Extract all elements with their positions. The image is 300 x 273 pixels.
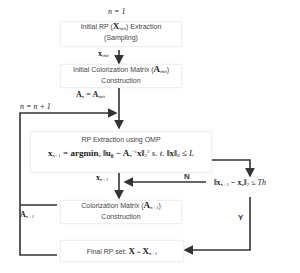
arrow-yes-branch [185,197,250,250]
colorization-box: Colorization Matrix (An+1) Construction [60,200,182,224]
a-next-label: An+1 [20,210,34,219]
final-rp-box: Final RP set: X = Xn+1 [60,240,184,262]
initial-colorization-line2: Construction [61,76,181,85]
yes-label: Y [238,213,243,222]
convergence-condition: ‖xn+1 − xn‖2 ≤ Th [214,178,266,187]
omp-formula: xn+1 = argminx ‖u₀ − An−1x‖22 s. t. ‖x‖0… [31,147,211,160]
a-n-init-label: An = Ainit [76,90,105,99]
x-next-label: xn+1 [96,173,108,182]
colorization-line1: Colorization Matrix (An+1) [61,201,181,212]
initial-colorization-box: Initial Colorization Matrix (Ainit) Cons… [60,64,182,88]
n-increment-label: n = n + 1 [20,102,51,111]
n-init-label: n = 1 [108,7,125,16]
initial-rp-line2: (Sampling) [61,33,181,42]
initial-rp-box: Initial RP (Xinit) Extraction (Sampling) [60,21,182,47]
initial-colorization-line1: Initial Colorization Matrix (Ainit) [61,65,181,76]
x-init-label: xinit [98,49,109,58]
omp-box: RP Extraction using OMP xn+1 = argminx ‖… [30,131,212,173]
arrow-omp-to-condition [212,160,250,176]
colorization-line2: Construction [61,212,181,221]
omp-title: RP Extraction using OMP [31,135,211,144]
no-label: N [184,172,190,181]
initial-rp-line1: Initial RP (Xinit) Extraction [61,22,181,33]
